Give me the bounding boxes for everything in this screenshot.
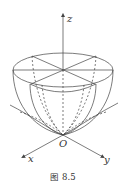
crossing-line-left	[10, 103, 118, 135]
dashed-generatrix-4	[63, 85, 84, 135]
origin-label: O	[59, 138, 67, 149]
z-axis-label: z	[66, 13, 73, 24]
surface-outline-right	[63, 70, 113, 135]
x-axis-label: x	[28, 153, 34, 164]
y-axis-label: y	[103, 154, 110, 165]
figure-caption: 图 8.5	[50, 172, 75, 182]
dashed-generatrix-3	[42, 85, 63, 135]
y-axis	[63, 135, 103, 157]
surface-outline-left	[13, 70, 63, 135]
figure-diagram: z x y O 图 8.5	[0, 0, 127, 191]
